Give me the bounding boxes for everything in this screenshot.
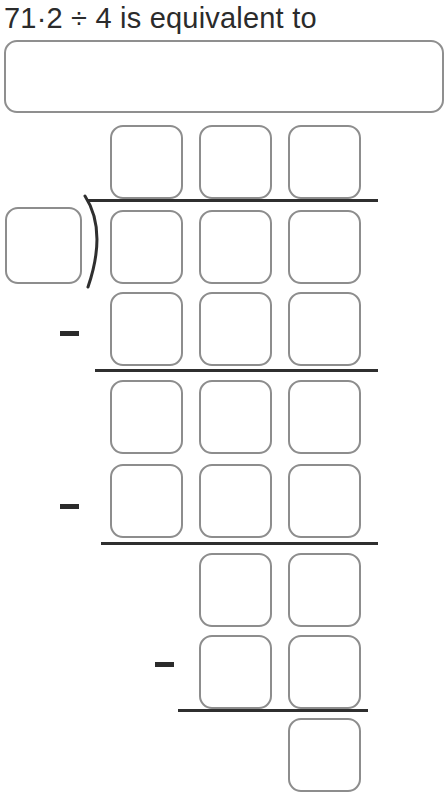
subtraction-rule-1: [95, 369, 378, 372]
answer-box-subtrahend-2-col3[interactable]: [288, 464, 361, 538]
answer-box-remainder-1-col2[interactable]: [199, 380, 272, 454]
answer-box-quotient-col2[interactable]: [199, 125, 272, 199]
answer-box-subtrahend-1-col1[interactable]: [110, 292, 183, 366]
answer-box-subtrahend-3-col3[interactable]: [288, 635, 361, 709]
divisor-input-box[interactable]: [5, 207, 82, 284]
vinculum: [88, 199, 378, 202]
answer-box-remainder-1-col3[interactable]: [288, 380, 361, 454]
answer-box-remainder-2-col2[interactable]: [199, 553, 272, 627]
subtraction-rule-3: [178, 709, 368, 712]
answer-box-subtrahend-2-col2[interactable]: [199, 464, 272, 538]
answer-box-dividend-col3[interactable]: [288, 210, 361, 284]
minus-2-icon: [60, 504, 79, 509]
answer-box-quotient-col3[interactable]: [288, 125, 361, 199]
answer-box-remainder-3-col3[interactable]: [288, 718, 361, 792]
subtraction-rule-2: [101, 542, 378, 545]
answer-box-dividend-col1[interactable]: [110, 210, 183, 284]
answer-box-remainder-2-col3[interactable]: [288, 553, 361, 627]
answer-box-dividend-col2[interactable]: [199, 210, 272, 284]
minus-1-icon: [60, 331, 79, 336]
answer-box-subtrahend-1-col2[interactable]: [199, 292, 272, 366]
minus-3-icon: [155, 662, 174, 667]
answer-box-subtrahend-3-col2[interactable]: [199, 635, 272, 709]
answer-box-quotient-col1[interactable]: [110, 125, 183, 199]
answer-box-subtrahend-2-col1[interactable]: [110, 464, 183, 538]
answer-box-remainder-1-col1[interactable]: [110, 380, 183, 454]
division-bracket-icon: [82, 194, 108, 290]
answer-box-subtrahend-1-col3[interactable]: [288, 292, 361, 366]
